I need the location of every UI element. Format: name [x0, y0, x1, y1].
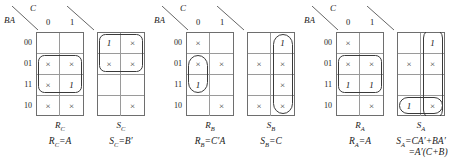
axis-diagonal-icon — [217, 6, 243, 28]
row-header-01: 01 — [316, 53, 332, 74]
kmap-group-overlay — [247, 32, 295, 116]
kmap-caption-subscript: B — [211, 125, 215, 132]
axis-label-ba: BA — [4, 15, 15, 25]
kmap-caption-subscript: B — [271, 125, 275, 132]
kmap-equation-rhs: =A — [59, 136, 71, 146]
kmap-equation-rhs: =CA′+BA′ — [405, 136, 446, 146]
row-header-10: 10 — [166, 95, 182, 116]
kmap-group-rect — [39, 56, 82, 93]
kmap-equation-line2-sa: =A′(C+B) — [383, 147, 452, 157]
kmap-caption-sc: SC — [86, 120, 156, 132]
axis-diagonal-icon — [67, 6, 93, 28]
kmap-group-rect — [339, 56, 382, 93]
kmap-sa — [397, 32, 445, 116]
column-header-0: 0 — [42, 17, 54, 27]
kmap-group-oval — [189, 56, 208, 93]
column-header-0: 0 — [192, 17, 204, 27]
kmap-equation-rhs: =C′A — [205, 136, 226, 146]
kmap-equation-rhs: =A — [359, 136, 371, 146]
kmap-group-oval-wrap — [424, 32, 443, 116]
row-header-10: 10 — [316, 95, 332, 116]
kmap-rc — [36, 32, 84, 116]
axis-label-c: C — [180, 3, 186, 13]
kmap-group-oval — [274, 35, 293, 114]
kmap-equation-sc: SC=B′ — [76, 136, 166, 148]
row-header-group: 00011110 — [166, 32, 182, 116]
kmap-equation-rhs: =B′ — [118, 136, 132, 146]
column-header-0: 0 — [342, 17, 354, 27]
kmap-group-rect — [100, 35, 143, 72]
kmap-equation-rhs: =C — [269, 136, 282, 146]
kmap-group-overlay — [186, 32, 234, 116]
kmap-sc — [97, 32, 145, 116]
kmap-group-overlay — [336, 32, 384, 116]
axis-label-c: C — [330, 3, 336, 13]
kmap-caption-rc: RC — [25, 120, 95, 132]
kmap-caption-subscript: A — [421, 125, 425, 132]
axis-label-c: C — [30, 3, 36, 13]
row-header-10: 10 — [16, 95, 32, 116]
row-header-group: 00011110 — [316, 32, 332, 116]
kmap-group-overlay — [36, 32, 84, 116]
kmap-caption-sa: SA — [386, 120, 452, 132]
axis-label-ba: BA — [304, 15, 315, 25]
kmap-ra — [336, 32, 384, 116]
kmap-group-overlay — [397, 32, 445, 116]
row-header-11: 11 — [316, 74, 332, 95]
row-header-00: 00 — [166, 32, 182, 53]
axis-label-ba: BA — [154, 15, 165, 25]
kmap-group-oval — [400, 98, 443, 114]
row-header-11: 11 — [166, 74, 182, 95]
kmap-caption-sb: SB — [236, 120, 306, 132]
kmap-caption-subscript: C — [61, 125, 65, 132]
row-header-01: 01 — [16, 53, 32, 74]
kmap-sb — [247, 32, 295, 116]
kmap-caption-subscript: A — [361, 125, 365, 132]
kmap-caption-ra: RA — [325, 120, 395, 132]
kmap-caption-rb: RB — [175, 120, 245, 132]
axis-diagonal-icon — [367, 6, 393, 28]
kmap-rb — [186, 32, 234, 116]
row-header-00: 00 — [316, 32, 332, 53]
row-header-group: 00011110 — [16, 32, 32, 116]
karnaugh-map-figure: CBA01CBA01CBA01000111100001111000011110×… — [0, 0, 452, 161]
kmap-equation-sb: SB=C — [226, 136, 316, 148]
kmap-group-overlay — [97, 32, 145, 116]
row-header-01: 01 — [166, 53, 182, 74]
row-header-11: 11 — [16, 74, 32, 95]
kmap-caption-subscript: C — [121, 125, 125, 132]
row-header-00: 00 — [16, 32, 32, 53]
